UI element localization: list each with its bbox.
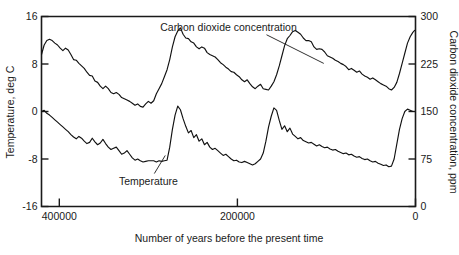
right-tick-label: 150 [421,105,439,117]
right-tick-label: 225 [421,58,439,70]
annotation-label: Carbon dioxide concentration [160,21,297,33]
annotation-label: Temperature [119,175,178,187]
annotation-leader-line [267,35,324,64]
annotation-leader-line [154,155,165,173]
left-tick-label: 16 [26,10,38,22]
left-tick-label: -8 [28,153,37,165]
co2-concentration-curve [42,28,415,107]
plot-frame [42,17,416,207]
temperature-curve [42,106,413,167]
bottom-tick-label: 400000 [42,210,77,222]
left-tick-label: 8 [32,58,38,70]
right-tick-label: 75 [421,153,433,165]
chart-annotations: Carbon dioxide concentrationTemperature [119,21,324,187]
bottom-tick-label: 0 [413,210,419,222]
right-tick-label: 0 [421,200,427,212]
ice-core-chart: 1680-8-16 300225150750 4000002000000 Car… [0,0,459,255]
x-axis-title: Number of years before the present time [135,232,324,244]
bottom-axis-ticks [59,199,415,207]
chart-figure: 1680-8-16 300225150750 4000002000000 Car… [0,0,459,255]
left-tick-label: 0 [32,105,38,117]
bottom-axis-tick-labels: 4000002000000 [42,210,419,222]
right-axis-tick-labels: 300225150750 [421,10,439,212]
left-tick-label: -16 [22,200,37,212]
right-tick-label: 300 [421,10,439,22]
y-axis-title: Temperature, deg C [4,65,16,158]
y2-axis-title: Carbon dioxide concentration, ppm [448,31,459,194]
bottom-tick-label: 200000 [220,210,255,222]
left-axis-tick-labels: 1680-8-16 [22,10,37,212]
